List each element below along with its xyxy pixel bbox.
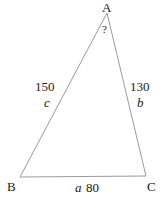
side-c-variable-label: c — [44, 96, 50, 109]
side-a-variable-label: a — [75, 181, 82, 194]
side-a-measure-label: 80 — [86, 181, 99, 194]
side-c-measure-label: 150 — [35, 80, 55, 93]
angle-marker-a-unknown: ? — [102, 24, 107, 35]
vertex-label-c: C — [147, 180, 156, 193]
triangle-diagram: A B C ? 150 c 130 b a 80 — [0, 0, 163, 202]
triangle-outline — [20, 13, 146, 177]
side-b-variable-label: b — [137, 96, 144, 109]
vertex-label-a: A — [102, 1, 111, 14]
vertex-label-b: B — [7, 180, 16, 193]
side-b-measure-label: 130 — [130, 80, 150, 93]
